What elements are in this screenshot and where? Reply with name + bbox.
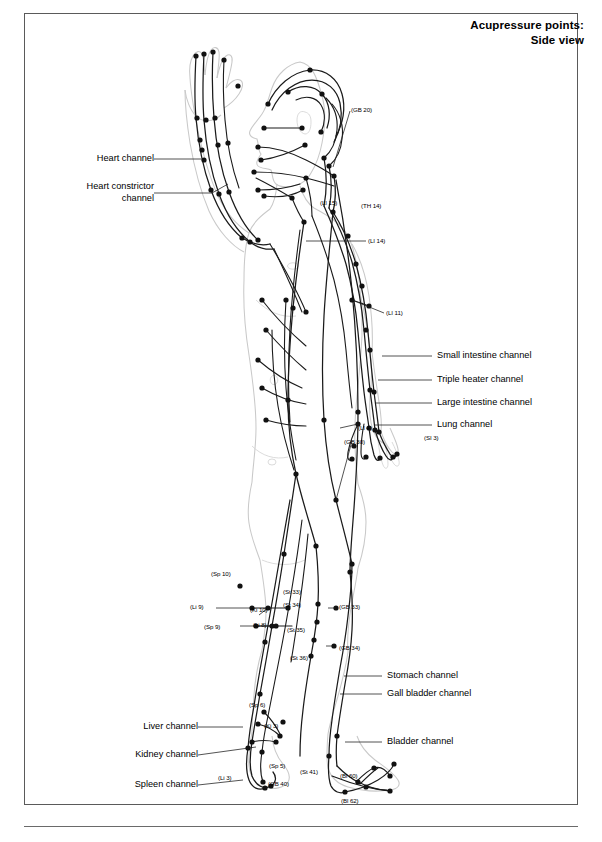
code-li-8: (Li 8)	[253, 621, 267, 628]
label-large-intestine-channel: Large intestine channel	[437, 397, 532, 409]
code-gb-33: (GB 33)	[339, 603, 360, 610]
code-sp-6: (Sp 6)	[249, 701, 265, 708]
acupressure-figure	[0, 0, 602, 842]
leader-lines	[154, 111, 432, 785]
code-bl-62: (Bl 62)	[341, 797, 359, 804]
code-st-36: (St 36)	[290, 654, 308, 661]
label-heart-channel: Heart channel	[0, 153, 154, 165]
code-ki-3: (Ki 3)	[264, 722, 278, 729]
code-st-35: (St 35)	[287, 626, 305, 633]
label-small-intestine-channel: Small intestine channel	[437, 350, 531, 362]
label-liver-channel: Liver channel	[40, 721, 198, 733]
page-canvas: Acupressure points: Side view	[0, 0, 602, 842]
label-bladder-channel: Bladder channel	[387, 736, 453, 748]
label-spleen-channel: Spleen channel	[40, 779, 198, 791]
label-heart-constrictor-line1: Heart constrictor	[0, 181, 154, 193]
code-gb-34: (GB 34)	[339, 644, 360, 651]
code-gb-40: (GB 40)	[268, 780, 289, 787]
code-st-41: (St 41)	[300, 768, 318, 775]
code-sp-9: (Sp 9)	[204, 623, 220, 630]
label-heart-constrictor-line2: channel	[0, 193, 154, 205]
label-gall-bladder-channel: Gall bladder channel	[387, 688, 471, 700]
label-stomach-channel: Stomach channel	[387, 670, 458, 682]
label-triple-heater-channel: Triple heater channel	[437, 374, 523, 386]
meridian-channels	[195, 52, 397, 793]
code-gb-20: (GB 20)	[351, 106, 372, 113]
code-st-33: (St 33)	[283, 588, 301, 595]
code-li-9: (Li 9)	[190, 603, 204, 610]
code-li-14: (LI 14)	[368, 237, 385, 244]
code-li-4: (LI 4)	[358, 424, 372, 431]
code-sp-10: (Sp 10)	[211, 570, 231, 577]
code-st-34: (St 34)	[283, 601, 301, 608]
body-silhouette	[185, 48, 399, 791]
code-si-3: (SI 3)	[424, 434, 439, 441]
code-li-3: (Li 3)	[218, 774, 232, 781]
code-ki-10: (Ki 10)	[250, 606, 268, 613]
code-sp-5: (Sp 5)	[269, 762, 285, 769]
code-li-11: (LI 11)	[386, 309, 403, 316]
code-gb-30: (GB 30)	[344, 438, 365, 445]
label-kidney-channel: Kidney channel	[40, 749, 198, 761]
code-th-14: (TH 14)	[361, 202, 381, 209]
label-lung-channel: Lung channel	[437, 419, 492, 431]
code-bl-60: (Bl 60)	[340, 772, 358, 779]
code-li-15: (LI 15)	[320, 199, 337, 206]
